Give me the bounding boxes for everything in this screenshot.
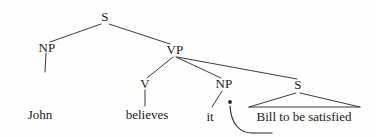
- node-np-object: NP: [215, 77, 232, 90]
- branch-vp-to-v: [147, 57, 173, 78]
- branch-vp-to-s-embedded: [177, 57, 297, 79]
- branch-s-to-np-subject: [50, 24, 101, 42]
- syntax-tree-diagram: S NP VP V NP S John believes it Bill to …: [0, 0, 376, 137]
- branch-s-to-vp: [109, 24, 170, 44]
- triangle-right-edge: [300, 93, 360, 107]
- node-v: V: [140, 77, 150, 90]
- leaf-john: John: [28, 108, 53, 121]
- leaf-bill-to-be-satisfied: Bill to be satisfied: [257, 110, 352, 123]
- leaf-it: it: [206, 110, 213, 123]
- branch-vp-to-np-object: [176, 57, 221, 78]
- branch-np-object-to-it: [212, 91, 222, 107]
- branch-np-subject-to-john: [45, 53, 46, 72]
- node-np-subject: NP: [38, 41, 55, 54]
- triangle-left-edge: [249, 93, 296, 107]
- node-s-embedded: S: [294, 78, 301, 91]
- node-s-root: S: [101, 10, 108, 23]
- node-vp: VP: [166, 43, 183, 56]
- leaf-believes: believes: [126, 108, 169, 121]
- movement-arrow-head: [228, 100, 232, 104]
